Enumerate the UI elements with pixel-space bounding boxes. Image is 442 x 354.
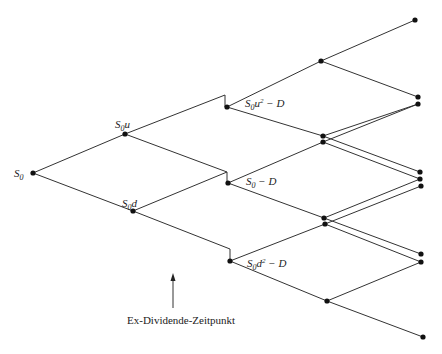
edge xyxy=(227,107,323,136)
node xyxy=(418,251,423,256)
node xyxy=(418,259,423,264)
arrow-head-icon xyxy=(171,273,176,281)
node xyxy=(320,139,325,144)
node xyxy=(417,169,422,174)
node xyxy=(412,17,417,22)
label-exdiv-bot: S0d2 − D xyxy=(247,257,286,272)
edge xyxy=(323,136,420,172)
edge xyxy=(230,224,325,261)
edge xyxy=(323,142,420,179)
node xyxy=(418,183,423,188)
edge xyxy=(321,20,415,61)
edge xyxy=(324,179,420,218)
edge xyxy=(327,301,423,337)
edge xyxy=(325,186,421,224)
caption-ex-dividend: Ex-Dividende-Zeitpunkt xyxy=(127,314,235,326)
node xyxy=(322,221,327,226)
label-exdiv-mid: S0 − D xyxy=(246,175,276,190)
edge xyxy=(228,183,324,218)
node xyxy=(415,101,420,106)
edge xyxy=(323,104,418,142)
node xyxy=(320,133,325,138)
edge xyxy=(327,262,421,301)
edge xyxy=(325,224,421,262)
node-exdiv-bot xyxy=(227,258,232,263)
label-exdiv-top: S0u2 − D xyxy=(245,97,284,112)
edge xyxy=(33,134,125,173)
node xyxy=(417,176,422,181)
edge xyxy=(321,61,418,97)
node-root xyxy=(30,170,35,175)
tree-nodes xyxy=(30,17,425,339)
edge xyxy=(33,173,133,211)
node-exdiv-top xyxy=(224,104,229,109)
edge xyxy=(323,104,418,136)
node xyxy=(321,215,326,220)
edge-dividend-drop xyxy=(125,134,227,183)
node xyxy=(415,94,420,99)
node xyxy=(420,334,425,339)
edge-dividend-drop xyxy=(133,211,230,261)
label-root: S0 xyxy=(14,167,24,182)
label-up: S0u xyxy=(115,118,131,133)
edge xyxy=(133,172,227,211)
node-exdiv-mid xyxy=(225,180,230,185)
node xyxy=(324,298,329,303)
edge xyxy=(324,218,421,254)
binomial-tree-diagram: S0 S0u S0d S0u2 − D S0 − D S0d2 − D Ex-D… xyxy=(0,0,442,354)
node xyxy=(318,58,323,63)
edge-dividend-drop xyxy=(125,95,225,134)
